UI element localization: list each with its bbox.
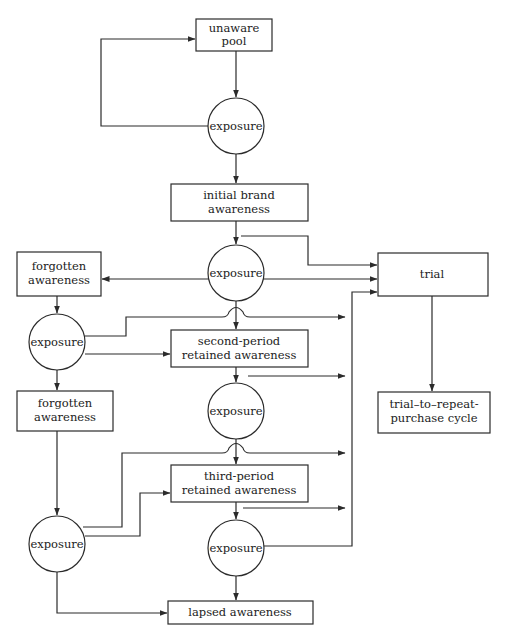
label: exposure <box>209 119 262 133</box>
node-forgotten-awareness-2: forgotten awareness <box>17 391 113 431</box>
label: trial–to–repeat- <box>389 397 478 411</box>
node-third-period-retained-awareness: third-period retained awareness <box>171 465 308 502</box>
node-second-period-retained-awareness: second-period retained awareness <box>171 330 308 367</box>
label: pool <box>222 34 247 48</box>
node-unaware-pool: unaware pool <box>196 19 272 51</box>
label: initial brand <box>203 188 275 202</box>
node-initial-brand-awareness: initial brand awareness <box>171 184 308 221</box>
label: exposure <box>30 335 83 349</box>
awareness-flow-diagram: unaware pool exposure initial brand awar… <box>0 0 505 636</box>
label: exposure <box>209 541 262 555</box>
node-exposure-4: exposure <box>208 520 264 576</box>
label: exposure <box>30 537 83 551</box>
label: unaware <box>209 21 260 35</box>
label: awareness <box>34 410 96 424</box>
label: forgotten <box>38 396 93 410</box>
node-exposure-2: exposure <box>208 245 264 301</box>
label: second-period <box>198 334 281 348</box>
label: lapsed awareness <box>188 605 292 619</box>
label: third-period <box>204 469 275 483</box>
label: retained awareness <box>182 483 297 497</box>
arrow-exposure-loop-to-unaware <box>101 39 208 126</box>
arrow-exposureleft2-to-lapsed <box>57 572 167 613</box>
label: trial <box>420 267 445 281</box>
node-trial-to-repeat-purchase-cycle: trial–to–repeat- purchase cycle <box>378 392 490 433</box>
label: exposure <box>209 266 262 280</box>
node-exposure-3: exposure <box>208 383 264 439</box>
node-trial: trial <box>378 253 488 296</box>
node-exposure-1: exposure <box>208 98 264 154</box>
node-exposure-left-2: exposure <box>29 516 85 572</box>
node-lapsed-awareness: lapsed awareness <box>168 601 313 624</box>
node-forgotten-awareness-1: forgotten awareness <box>17 252 101 296</box>
label: purchase cycle <box>390 411 477 425</box>
label: awareness <box>28 273 90 287</box>
arrow-exposureleft2-to-third <box>85 493 170 536</box>
label: forgotten <box>32 259 87 273</box>
label: awareness <box>208 202 270 216</box>
node-exposure-left-1: exposure <box>29 314 85 370</box>
label: exposure <box>209 404 262 418</box>
label: retained awareness <box>182 348 297 362</box>
